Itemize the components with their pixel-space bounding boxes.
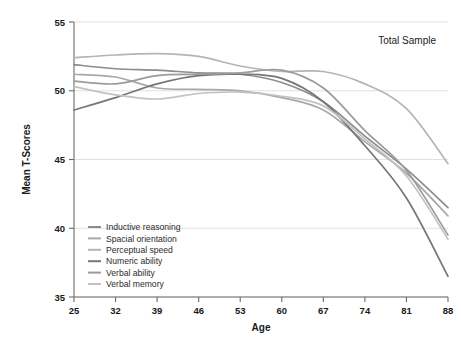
legend-label: Perceptual speed (106, 245, 173, 255)
legend-label: Spacial orientation (106, 234, 177, 244)
x-tick-label: 74 (360, 305, 371, 316)
x-tick-label: 32 (110, 305, 121, 316)
series-line (74, 65, 448, 208)
y-tick-label: 55 (54, 17, 65, 28)
x-tick-label: 60 (276, 305, 287, 316)
y-tick-label: 45 (54, 154, 65, 165)
series-line (74, 74, 448, 216)
x-tick-label: 46 (193, 305, 204, 316)
y-tick-label: 40 (54, 223, 65, 234)
x-axis-title: Age (252, 322, 271, 333)
line-chart: 354045505525323946536067748188AgeMean T-… (0, 0, 461, 351)
legend-label: Verbal ability (106, 268, 155, 278)
x-axis-ticks: 25323946536067748188 (69, 297, 454, 316)
x-tick-label: 39 (152, 305, 163, 316)
y-tick-label: 35 (54, 292, 65, 303)
x-tick-label: 81 (401, 305, 412, 316)
x-tick-label: 67 (318, 305, 329, 316)
chart-annotation: Total Sample (378, 35, 436, 46)
y-axis-title: Mean T-Scores (21, 124, 32, 195)
legend-label: Verbal memory (106, 279, 164, 289)
legend-label: Inductive reasoning (106, 222, 181, 232)
chart-figure: 354045505525323946536067748188AgeMean T-… (0, 0, 461, 351)
x-tick-label: 25 (69, 305, 80, 316)
x-tick-label: 53 (235, 305, 246, 316)
y-axis-ticks: 3540455055 (54, 17, 74, 303)
legend-label: Numeric ability (106, 256, 163, 266)
x-tick-label: 88 (443, 305, 454, 316)
legend: Inductive reasoningSpacial orientationPe… (88, 222, 181, 289)
y-tick-label: 50 (54, 85, 65, 96)
series-line (74, 87, 448, 240)
